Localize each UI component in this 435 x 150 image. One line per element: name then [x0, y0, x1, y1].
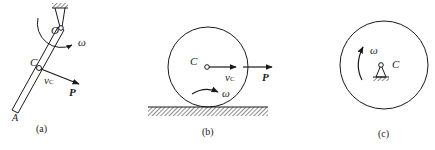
label-omega: ω: [78, 36, 86, 48]
pivot-o: [59, 26, 64, 31]
label-o: O: [51, 24, 59, 36]
omega-arc-icon: [192, 89, 218, 94]
rotating-disk: [340, 21, 428, 109]
caption-a: (a): [36, 123, 47, 135]
label-vc: vC: [44, 74, 54, 86]
mechanics-diagram: O C A ω vC P (a) C vC P ω (b) ω: [0, 0, 435, 150]
label-p: P: [262, 71, 269, 83]
label-vc: vC: [225, 71, 235, 83]
label-c: C: [392, 58, 400, 70]
caption-c: (c): [378, 128, 389, 140]
center-c: [205, 65, 210, 70]
figure-b: C vC P ω (b): [148, 27, 272, 138]
figure-c: ω C (c): [340, 21, 428, 140]
pivot-support-icon: [373, 63, 389, 81]
figure-a: O C A ω vC P (a): [11, 3, 86, 135]
label-c: C: [190, 55, 198, 67]
ground-hatch: [148, 107, 268, 116]
label-c: C: [30, 56, 38, 68]
caption-b: (b): [202, 126, 214, 138]
label-omega: ω: [222, 87, 230, 99]
label-a: A: [11, 112, 19, 123]
label-p: P: [69, 86, 76, 98]
omega-arc-icon: [358, 47, 363, 80]
label-omega: ω: [370, 44, 378, 56]
